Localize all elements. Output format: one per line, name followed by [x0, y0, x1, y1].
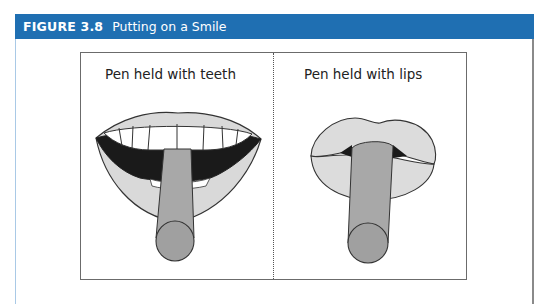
pen-end-left: [156, 221, 194, 261]
smile-mouth-illustration: [96, 112, 261, 261]
upper-teeth: [104, 126, 252, 150]
pen-end-right: [348, 223, 388, 263]
pursed-lips-illustration: [311, 118, 436, 263]
